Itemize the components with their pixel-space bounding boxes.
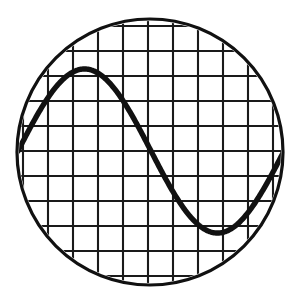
oscilloscope-screen <box>0 0 297 287</box>
scope-display-svg <box>0 0 297 287</box>
